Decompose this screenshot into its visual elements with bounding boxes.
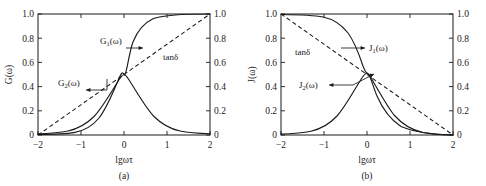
y-ticklabel-left-b-5: 0 <box>272 130 277 140</box>
y-ticklabel-right-a-4: 0.2 <box>214 106 226 116</box>
panel-b-svg: 1.0 0.8 0.6 0.4 0.2 0 1.0 0.8 0.6 0.4 0.… <box>243 0 486 186</box>
annotation-g2-a: G2(ω) <box>58 78 107 92</box>
panel-caption-b: (b) <box>361 171 372 182</box>
panel-caption-a: (a) <box>119 171 130 182</box>
y-ticklabel-left-a-0: 1.0 <box>22 9 34 19</box>
label-j1-arg-b: (ω) <box>376 43 388 53</box>
x-ticklabel-a-4: 2 <box>208 140 213 150</box>
y-ticklabel-left-a-4: 0.2 <box>22 106 34 116</box>
y-axis-ticks-right-b <box>449 14 453 135</box>
y-ticklabel-left-a-3: 0.4 <box>22 82 34 92</box>
annotation-j1-b: J1(ω) <box>341 43 388 54</box>
x-ticklabel-a-3: 1 <box>165 140 170 150</box>
y-ticklabel-right-a-5: 0 <box>214 130 219 140</box>
y-axis-ticks-left-a <box>38 14 42 135</box>
x-ticklabel-b-3: 1 <box>408 140 413 150</box>
y-ticklabel-right-a-3: 0.4 <box>214 82 226 92</box>
curve-tandelta-b <box>281 14 453 135</box>
x-ticklabel-b-1: −1 <box>319 140 329 150</box>
svg-text:J2(ω): J2(ω) <box>299 80 318 91</box>
label-g1-arg-a: (ω) <box>110 36 122 46</box>
y-ticklabel-left-a-1: 0.8 <box>22 34 34 44</box>
x-axis-label-a: lgωτ <box>115 155 133 165</box>
x-axis-ticks-top-b <box>324 14 410 18</box>
x-ticklabel-b-0: −2 <box>276 140 286 150</box>
svg-text:G1(ω): G1(ω) <box>100 36 122 47</box>
annotation-tandelta-b: tanδ <box>295 47 310 57</box>
svg-text:G2(ω): G2(ω) <box>58 78 80 89</box>
y-ticklabel-left-b-0: 1.0 <box>265 9 277 19</box>
x-axis-ticks-top-a <box>81 14 167 18</box>
y-ticklabel-right-b-5: 0 <box>457 130 462 140</box>
y-ticklabel-right-b-2: 0.6 <box>457 58 469 68</box>
annotation-tandelta-a: tanδ <box>163 52 178 62</box>
y-axis-ticks-right-a <box>206 14 210 135</box>
panel-a: 1.0 0.8 0.6 0.4 0.2 0 1.0 0.8 0.6 0.4 0.… <box>0 0 243 186</box>
annotation-g1-a: G1(ω) <box>100 36 143 50</box>
y-ticklabel-right-b-3: 0.4 <box>457 82 469 92</box>
label-g2-arg-a: (ω) <box>68 78 80 88</box>
x-ticklabel-b-4: 2 <box>451 140 456 150</box>
svg-text:J1(ω): J1(ω) <box>369 43 388 54</box>
y-ticklabel-right-a-2: 0.6 <box>214 58 226 68</box>
panel-b: 1.0 0.8 0.6 0.4 0.2 0 1.0 0.8 0.6 0.4 0.… <box>243 0 486 186</box>
y-ticklabel-right-b-1: 0.8 <box>457 34 469 44</box>
y-ticklabel-left-b-4: 0.2 <box>265 106 277 116</box>
y-ticklabel-right-a-1: 0.8 <box>214 34 226 44</box>
figure-container: 1.0 0.8 0.6 0.4 0.2 0 1.0 0.8 0.6 0.4 0.… <box>0 0 486 186</box>
x-ticklabel-a-1: −1 <box>76 140 86 150</box>
x-axis-label-b: lgωτ <box>358 155 376 165</box>
y-ticklabel-left-b-2: 0.6 <box>265 58 277 68</box>
y-ticklabel-right-b-0: 1.0 <box>457 9 469 19</box>
panel-a-svg: 1.0 0.8 0.6 0.4 0.2 0 1.0 0.8 0.6 0.4 0.… <box>0 0 243 186</box>
y-ticklabel-left-b-3: 0.4 <box>265 82 277 92</box>
y-ticklabel-left-a-5: 0 <box>29 130 34 140</box>
y-axis-label-b: J(ω) <box>247 66 258 82</box>
y-ticklabel-left-b-1: 0.8 <box>265 34 277 44</box>
x-ticklabel-b-2: 0 <box>365 140 370 150</box>
y-ticklabel-left-a-2: 0.6 <box>22 58 34 68</box>
y-ticklabel-right-b-4: 0.2 <box>457 106 469 116</box>
x-ticklabel-a-0: −2 <box>33 140 43 150</box>
y-axis-ticks-left-b <box>281 14 285 135</box>
y-ticklabel-right-a-0: 1.0 <box>214 9 226 19</box>
y-axis-label-a: G(ω) <box>4 65 15 84</box>
x-ticklabel-a-2: 0 <box>122 140 127 150</box>
label-j2-arg-b: (ω) <box>306 80 318 90</box>
